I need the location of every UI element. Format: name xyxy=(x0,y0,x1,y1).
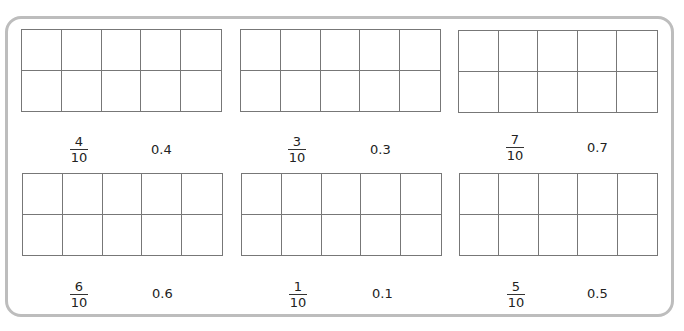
grid-cell[interactable] xyxy=(241,71,281,112)
grid-cell[interactable] xyxy=(321,30,361,71)
grid-cell[interactable] xyxy=(22,71,62,112)
tenths-grid-3 xyxy=(458,30,658,113)
denominator: 10 xyxy=(504,295,528,309)
grid-cell[interactable] xyxy=(618,174,657,215)
grid-cell[interactable] xyxy=(499,31,539,72)
grid-cell[interactable] xyxy=(400,71,440,112)
grid-cell[interactable] xyxy=(141,71,181,112)
grid-cell[interactable] xyxy=(539,174,578,215)
grid-cell[interactable] xyxy=(63,174,103,215)
fraction-4: 6 10 xyxy=(67,280,91,309)
grid-cell[interactable] xyxy=(538,72,578,113)
decimal-3: 0.7 xyxy=(587,140,608,155)
grid-cell[interactable] xyxy=(282,174,322,215)
grid-cell[interactable] xyxy=(401,174,441,215)
grid-cell[interactable] xyxy=(460,215,499,256)
grid-cell[interactable] xyxy=(242,215,282,256)
grid-cell[interactable] xyxy=(281,71,321,112)
grid-cell[interactable] xyxy=(401,215,441,256)
numerator: 1 xyxy=(289,280,307,295)
grid-cell[interactable] xyxy=(499,174,538,215)
tenths-grid-5 xyxy=(241,173,442,256)
grid-cell[interactable] xyxy=(142,174,182,215)
grid-cell[interactable] xyxy=(23,174,63,215)
tenths-grid-2 xyxy=(240,29,441,112)
grid-cell[interactable] xyxy=(618,215,657,256)
grid-cell[interactable] xyxy=(578,31,618,72)
grid-cell[interactable] xyxy=(62,30,102,71)
grid-cell[interactable] xyxy=(460,174,499,215)
denominator: 10 xyxy=(67,150,91,164)
grid-cell[interactable] xyxy=(103,174,143,215)
decimal-1: 0.4 xyxy=(151,142,172,157)
fraction-3: 7 10 xyxy=(503,133,527,162)
grid-cell[interactable] xyxy=(181,30,221,71)
grid-cell[interactable] xyxy=(361,215,401,256)
grid-cell[interactable] xyxy=(141,30,181,71)
numerator: 5 xyxy=(507,280,525,295)
grid-cell[interactable] xyxy=(321,71,361,112)
grid-cell[interactable] xyxy=(182,215,222,256)
grid-cell[interactable] xyxy=(578,72,618,113)
grid-cell[interactable] xyxy=(242,174,282,215)
grid-cell[interactable] xyxy=(499,215,538,256)
grid-cell[interactable] xyxy=(182,174,222,215)
denominator: 10 xyxy=(67,295,91,309)
numerator: 7 xyxy=(506,133,524,148)
grid-cell[interactable] xyxy=(22,30,62,71)
tenths-grid-6 xyxy=(459,173,658,256)
grid-cell[interactable] xyxy=(282,215,322,256)
grid-cell[interactable] xyxy=(400,30,440,71)
grid-cell[interactable] xyxy=(103,215,143,256)
grid-cell[interactable] xyxy=(142,215,182,256)
denominator: 10 xyxy=(285,150,309,164)
grid-cell[interactable] xyxy=(241,30,281,71)
denominator: 10 xyxy=(503,148,527,162)
fraction-1: 4 10 xyxy=(67,135,91,164)
grid-cell[interactable] xyxy=(361,174,401,215)
grid-cell[interactable] xyxy=(63,215,103,256)
grid-cell[interactable] xyxy=(102,30,142,71)
grid-cell[interactable] xyxy=(459,31,499,72)
grid-cell[interactable] xyxy=(322,174,362,215)
grid-cell[interactable] xyxy=(459,72,499,113)
denominator: 10 xyxy=(286,295,310,309)
grid-cell[interactable] xyxy=(102,71,142,112)
numerator: 3 xyxy=(288,135,306,150)
numerator: 6 xyxy=(70,280,88,295)
tenths-grid-1 xyxy=(21,29,222,112)
grid-cell[interactable] xyxy=(539,215,578,256)
grid-cell[interactable] xyxy=(181,71,221,112)
grid-cell[interactable] xyxy=(578,174,617,215)
grid-cell[interactable] xyxy=(617,31,657,72)
grid-cell[interactable] xyxy=(360,71,400,112)
grid-cell[interactable] xyxy=(322,215,362,256)
decimal-2: 0.3 xyxy=(370,142,391,157)
tenths-grid-4 xyxy=(22,173,223,256)
fraction-5: 1 10 xyxy=(286,280,310,309)
grid-cell[interactable] xyxy=(23,215,63,256)
grid-cell[interactable] xyxy=(499,72,539,113)
numerator: 4 xyxy=(70,135,88,150)
grid-cell[interactable] xyxy=(62,71,102,112)
grid-cell[interactable] xyxy=(617,72,657,113)
decimal-5: 0.1 xyxy=(372,286,393,301)
fraction-6: 5 10 xyxy=(504,280,528,309)
grid-cell[interactable] xyxy=(538,31,578,72)
fraction-2: 3 10 xyxy=(285,135,309,164)
grid-cell[interactable] xyxy=(578,215,617,256)
decimal-4: 0.6 xyxy=(152,286,173,301)
decimal-6: 0.5 xyxy=(587,286,608,301)
grid-cell[interactable] xyxy=(360,30,400,71)
grid-cell[interactable] xyxy=(281,30,321,71)
